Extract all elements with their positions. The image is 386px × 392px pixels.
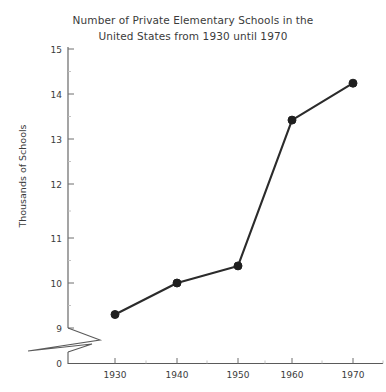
y-tick-label-15: 15 — [51, 45, 62, 55]
data-point-1940 — [173, 279, 181, 287]
data-point-1970 — [349, 79, 357, 87]
y-tick-label-11: 11 — [51, 234, 62, 244]
y-tick-label-10: 10 — [51, 279, 63, 289]
y-tick-label-12: 12 — [51, 180, 62, 190]
data-point-1960 — [288, 116, 296, 124]
x-tick-label-1940: 1940 — [166, 370, 189, 380]
data-point-1950 — [234, 262, 242, 270]
y-tick-label-14: 14 — [51, 90, 63, 100]
line-chart: Number of Private Elementary Schools in … — [0, 0, 386, 392]
x-tick-label-1930: 1930 — [104, 370, 127, 380]
x-tick-label-1950: 1950 — [227, 370, 250, 380]
y-axis-title: Thousands of Schools — [17, 124, 28, 228]
x-tick-label-1960: 1960 — [281, 370, 304, 380]
y-tick-label-9: 9 — [56, 324, 62, 334]
y-tick-label-13: 13 — [51, 135, 62, 145]
data-point-1930 — [111, 311, 119, 319]
x-tick-label-1970: 1970 — [342, 370, 365, 380]
chart-title-line-2: United States from 1930 until 1970 — [99, 30, 288, 42]
chart-container: Number of Private Elementary Schools in … — [0, 0, 386, 392]
chart-title-line-1: Number of Private Elementary Schools in … — [73, 14, 314, 26]
y-tick-label-0: 0 — [56, 359, 62, 369]
